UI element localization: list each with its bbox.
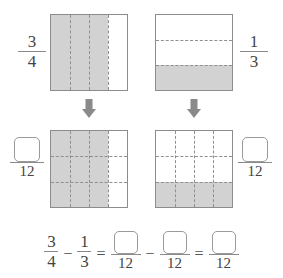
equation-answer-fraction-2: 12 xyxy=(160,231,190,272)
grid-cell xyxy=(108,131,127,156)
grid-cell xyxy=(156,65,232,90)
answer-box-slot xyxy=(160,231,190,254)
fraction-blank-over-twelve: 12 xyxy=(238,137,272,180)
grid-cell xyxy=(175,182,194,207)
fraction-denominator: 12 xyxy=(214,255,233,272)
grid-cell xyxy=(51,15,70,90)
bottom-left-answer-fraction: 12 xyxy=(10,137,44,180)
fraction-denominator: 4 xyxy=(45,252,58,271)
equation-fraction-one-third: 1 3 xyxy=(77,232,91,271)
fraction-denominator: 12 xyxy=(116,255,135,272)
fraction-numerator: 3 xyxy=(26,32,39,51)
fraction-numerator: 3 xyxy=(45,232,58,251)
equation-fraction-three-fourths: 3 4 xyxy=(44,232,58,271)
answer-box-slot xyxy=(238,137,272,162)
fraction-three-fourths: 3 4 xyxy=(18,32,46,71)
grid-cell xyxy=(70,182,89,207)
answer-input-box[interactable] xyxy=(212,231,236,254)
fraction-numerator: 1 xyxy=(78,232,91,251)
grid-cell xyxy=(213,182,232,207)
grid-cell xyxy=(70,156,89,181)
arrow-head xyxy=(82,109,96,118)
answer-input-box[interactable] xyxy=(114,231,138,254)
bottom-right-answer-fraction: 12 xyxy=(238,137,272,180)
fraction-denominator: 4 xyxy=(26,52,39,71)
arrow-shaft xyxy=(86,99,93,109)
fraction-denominator: 12 xyxy=(246,163,265,180)
equals-operator: = xyxy=(193,246,206,262)
fraction-denominator: 3 xyxy=(248,52,261,71)
fraction-denominator: 3 xyxy=(78,252,91,271)
cell-grid xyxy=(51,15,127,90)
fraction-numerator: 1 xyxy=(248,32,261,51)
grid-cell xyxy=(156,40,232,65)
fraction-denominator: 12 xyxy=(165,255,184,272)
fraction-denominator: 12 xyxy=(18,163,37,180)
grid-cell xyxy=(51,131,70,156)
equals-operator: = xyxy=(94,246,107,262)
fraction-subtraction-worksheet: { "problem": { "left_fraction": { "numer… xyxy=(0,0,283,278)
arrow-head xyxy=(187,109,201,118)
answer-input-box[interactable] xyxy=(242,137,268,162)
answer-box-slot xyxy=(111,231,141,254)
fraction-one-third: 1 3 xyxy=(240,32,268,71)
grid-cell xyxy=(175,131,194,156)
cell-grid xyxy=(51,131,127,207)
grid-cell xyxy=(108,156,127,181)
grid-cell xyxy=(89,156,108,181)
grid-cell xyxy=(89,182,108,207)
diagram-four-twelfths xyxy=(155,130,233,208)
answer-box-slot xyxy=(209,231,239,254)
grid-cell xyxy=(51,182,70,207)
grid-cell xyxy=(70,15,89,90)
grid-cell xyxy=(156,15,232,40)
cell-grid xyxy=(156,15,232,90)
grid-cell xyxy=(156,156,175,181)
grid-cell xyxy=(70,131,89,156)
grid-cell xyxy=(108,182,127,207)
grid-cell xyxy=(194,156,213,181)
equation-answer-fraction-1: 12 xyxy=(111,231,141,272)
answer-input-box[interactable] xyxy=(14,137,40,162)
grid-cell xyxy=(89,131,108,156)
diagram-nine-twelfths xyxy=(50,130,128,208)
top-left-fraction-label: 3 4 xyxy=(18,32,46,71)
grid-cell xyxy=(175,156,194,181)
minus-operator: − xyxy=(61,246,74,262)
grid-cell xyxy=(89,15,108,90)
minus-operator: − xyxy=(144,246,157,262)
fraction-blank-over-twelve: 12 xyxy=(10,137,44,180)
equation-row: 3 4 − 1 3 = 12 − 12 = 12 xyxy=(0,231,283,272)
equation-answer-fraction-3: 12 xyxy=(209,231,239,272)
top-right-fraction-label: 1 3 xyxy=(240,32,268,71)
answer-box-slot xyxy=(10,137,44,162)
grid-cell xyxy=(213,156,232,181)
cell-grid xyxy=(156,131,232,207)
grid-cell xyxy=(108,15,127,90)
grid-cell xyxy=(51,156,70,181)
answer-input-box[interactable] xyxy=(163,231,187,254)
grid-cell xyxy=(156,182,175,207)
grid-cell xyxy=(156,131,175,156)
diagram-one-third xyxy=(155,14,233,91)
diagram-three-fourths xyxy=(50,14,128,91)
arrow-shaft xyxy=(191,99,198,109)
grid-cell xyxy=(194,182,213,207)
grid-cell xyxy=(213,131,232,156)
grid-cell xyxy=(194,131,213,156)
